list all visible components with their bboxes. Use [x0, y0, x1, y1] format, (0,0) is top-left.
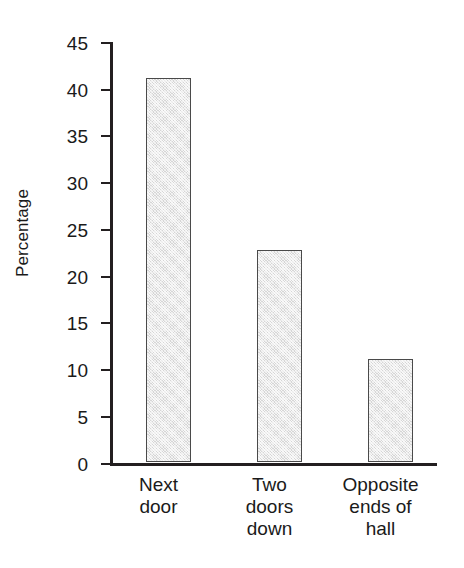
y-tick-label-45: 45 [67, 34, 88, 53]
y-axis-line [110, 42, 113, 466]
y-tick-0: 0 [101, 463, 110, 465]
y-tick-label-15: 15 [67, 314, 88, 333]
bar-next-door [146, 78, 191, 462]
x-category-label-2: Opposite ends of hall [318, 474, 443, 540]
y-tick-10: 10 [101, 369, 110, 371]
y-tick-label-30: 30 [67, 174, 88, 193]
y-tick-label-10: 10 [67, 361, 88, 380]
y-axis-title-text: Percentage [13, 189, 33, 277]
y-tick-40: 40 [101, 89, 110, 91]
bar-opposite-ends-of-hall [368, 359, 413, 462]
y-tick-5: 5 [101, 416, 110, 418]
y-tick-30: 30 [101, 182, 110, 184]
y-tick-label-25: 25 [67, 221, 88, 240]
y-axis-title: Percentage [0, 0, 46, 465]
y-tick-label-20: 20 [67, 268, 88, 287]
bar-chart-figure: Percentage 0 5 10 15 20 25 30 35 40 [0, 0, 464, 568]
y-tick-35: 35 [101, 135, 110, 137]
y-tick-label-35: 35 [67, 127, 88, 146]
y-tick-20: 20 [101, 276, 110, 278]
x-category-label-0: Next door [96, 474, 221, 518]
y-tick-15: 15 [101, 322, 110, 324]
y-tick-label-40: 40 [67, 81, 88, 100]
plot-area: 0 5 10 15 20 25 30 35 40 45 [110, 42, 437, 465]
x-axis-line [110, 463, 437, 466]
y-tick-25: 25 [101, 229, 110, 231]
x-category-label-1: Two doors down [207, 474, 332, 540]
y-tick-45: 45 [101, 42, 110, 44]
y-tick-label-5: 5 [77, 408, 88, 427]
bar-two-doors-down [257, 250, 302, 462]
y-tick-label-0: 0 [77, 455, 88, 474]
